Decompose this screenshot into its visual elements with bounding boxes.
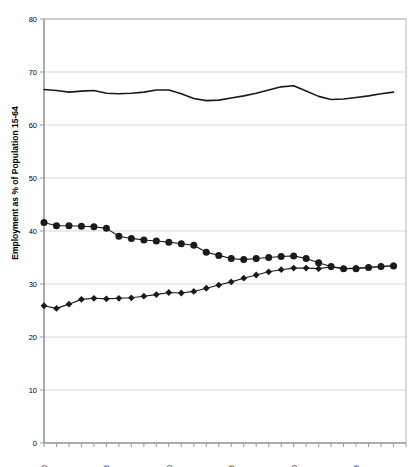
data-series-group [41,86,398,312]
series-line-total [44,86,394,101]
data-point-marker-diamond [290,265,297,272]
data-point-marker-diamond [203,285,210,292]
data-point-marker-circle [278,253,285,260]
data-point-marker-diamond [41,302,48,309]
data-point-marker-diamond [128,294,135,301]
y-axis-ticks-group: 01020304050607080 [29,15,44,448]
y-tick-label: 70 [29,68,37,77]
data-point-marker-circle [203,249,210,256]
data-point-marker-diamond [66,301,73,308]
data-point-marker-circle [103,225,110,232]
data-point-marker-diamond [303,265,310,272]
data-point-marker-circle [153,238,160,245]
data-point-marker-circle [240,256,247,263]
data-point-marker-diamond [103,295,110,302]
data-point-marker-diamond [265,268,272,275]
y-tick-label: 20 [29,333,37,342]
y-tick-label: 40 [29,227,37,236]
data-point-marker-diamond [153,291,160,298]
data-point-marker-circle [140,237,147,244]
series-line-men [44,223,394,269]
chart-plot-area: 01020304050607080 1970197519801985199019… [0,0,414,467]
data-point-marker-circle [290,252,297,259]
data-point-marker-diamond [315,265,322,272]
data-point-marker-circle [115,233,122,240]
y-tick-label: 60 [29,121,37,130]
chart-container: Employment as % of Population 15-64 0102… [0,0,414,467]
data-point-marker-diamond [115,295,122,302]
data-point-marker-circle [78,223,85,230]
data-point-marker-circle [303,255,310,262]
y-tick-label: 0 [33,439,37,448]
data-point-marker-diamond [140,293,147,300]
data-point-marker-circle [41,219,48,226]
data-point-marker-circle [53,222,60,229]
data-point-marker-circle [265,254,272,261]
gridlines-group [44,19,406,390]
data-point-marker-circle [165,239,172,246]
data-point-marker-diamond [165,289,172,296]
data-point-marker-diamond [240,275,247,282]
data-point-marker-diamond [78,296,85,303]
y-tick-label: 30 [29,280,37,289]
data-point-marker-circle [65,222,72,229]
y-tick-label: 80 [29,15,37,24]
data-point-marker-circle [228,255,235,262]
data-point-marker-circle [215,252,222,259]
data-point-marker-diamond [215,282,222,289]
data-point-marker-diamond [91,295,98,302]
data-point-marker-circle [253,255,260,262]
x-axis-ticks-group: 197019751980198519901995 [40,443,406,467]
data-point-marker-circle [90,223,97,230]
data-point-marker-diamond [253,272,260,279]
data-point-marker-diamond [278,266,285,273]
data-point-marker-circle [178,240,185,247]
y-tick-label: 10 [29,386,37,395]
y-tick-label: 50 [29,174,37,183]
data-point-marker-diamond [190,288,197,295]
data-point-marker-diamond [178,290,185,297]
data-point-marker-diamond [53,305,60,312]
data-point-marker-circle [128,235,135,242]
data-point-marker-circle [190,242,197,249]
